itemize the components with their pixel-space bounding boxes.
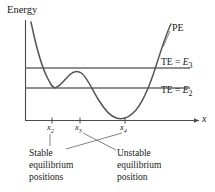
energy-line-label-e3: TE = E3 [161, 57, 192, 70]
te3-prefix: TE = [161, 57, 183, 67]
x-axis-arrowhead [194, 118, 199, 122]
caption-stable-line3: positions [29, 172, 73, 184]
energy-line-label-e2: TE = E2 [161, 85, 192, 98]
tick-label-x2: x2 [47, 123, 54, 135]
caption-unstable-line2: equilibrium [117, 160, 161, 172]
caption-unstable-line1: Unstable [117, 148, 161, 160]
te2-subscript: 2 [189, 89, 193, 98]
tick-label-x4: x4 [120, 123, 127, 135]
tick-x4-subscript: 4 [124, 128, 127, 134]
te2-prefix: TE = [161, 85, 183, 95]
caption-unstable-equilibrium: Unstable equilibrium position [117, 148, 161, 184]
pe-curve-label: PE [172, 22, 184, 34]
caption-stable-line1: Stable [29, 148, 73, 160]
potential-energy-diagram: Energy x PE TE = E3 TE = E2 x2 x3 x4 Sta… [0, 0, 215, 192]
caption-stable-line2: equilibrium [29, 160, 73, 172]
tick-x3-subscript: 3 [79, 128, 82, 134]
y-axis-label: Energy [7, 4, 37, 16]
caption-stable-equilibrium: Stable equilibrium positions [29, 148, 73, 184]
leader-line-x3-to-unstable [83, 133, 116, 150]
caption-unstable-line3: position [117, 172, 161, 184]
potential-energy-curve [31, 22, 171, 119]
te3-subscript: 3 [189, 61, 193, 70]
tick-x2-subscript: 2 [51, 128, 54, 134]
tick-label-x3: x3 [75, 123, 82, 135]
leader-line-x4-to-stable [66, 133, 122, 149]
x-axis-label: x [202, 113, 206, 125]
